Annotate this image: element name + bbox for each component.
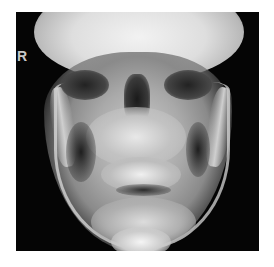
cervical-spine — [111, 227, 171, 251]
maxillary-sinus-right — [186, 122, 210, 177]
orbit-left — [61, 70, 109, 100]
xray-image: R — [16, 12, 259, 251]
oral-gap — [116, 184, 171, 196]
orbit-right — [164, 70, 212, 100]
side-marker: R — [17, 49, 27, 63]
maxillary-sinus-left — [66, 122, 96, 182]
